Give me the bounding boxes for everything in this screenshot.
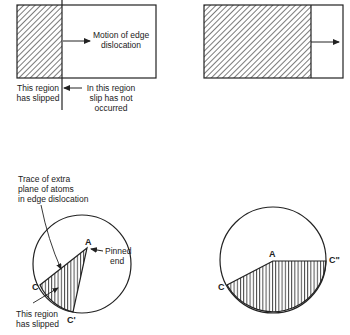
motion-label-line1: Motion of edge [93, 30, 150, 40]
panel-top-right [204, 5, 343, 78]
point-c-prime-label: C' [67, 315, 76, 325]
point-c-label: C [32, 282, 39, 292]
slipped-hatched-sector [40, 248, 87, 312]
trace-label-line1: Trace of extra [18, 174, 70, 184]
panel-bottom-right: A C C" [218, 207, 340, 313]
pinned-label-line1: Pinned [105, 246, 132, 256]
pinned-arrow [91, 249, 103, 251]
slipped-label-line1: This region [16, 309, 58, 319]
slipped-label-line1: This region [17, 83, 59, 93]
trace-pointer [41, 205, 61, 269]
motion-label-line2: dislocation [101, 40, 141, 50]
point-c-double-prime-label: C" [329, 255, 340, 265]
point-a-label: A [85, 237, 92, 247]
slipped-label-line2: has slipped [16, 319, 59, 329]
slipped-hatched-region [227, 261, 326, 312]
slipped-hatched-region [204, 5, 311, 78]
dislocation-diagram: Motion of edge dislocation This region h… [0, 0, 350, 335]
trace-label-line3: in edge dislocation [18, 194, 89, 204]
slipped-hatched-region [17, 5, 62, 78]
not-slipped-label-line1: In this region [87, 83, 136, 93]
point-c-label: C [218, 282, 225, 292]
trace-label-line2: plane of atoms [18, 184, 74, 194]
panel-bottom-left: Trace of extra plane of atoms in edge di… [16, 174, 132, 329]
pinned-label-line2: end [110, 256, 124, 266]
not-slipped-label-line2: slip has not [90, 93, 134, 103]
not-slipped-label-line3: occurred [94, 103, 127, 113]
slipped-label-line2: has slipped [16, 93, 59, 103]
point-a-label: A [269, 249, 276, 259]
panel-top-left: Motion of edge dislocation This region h… [16, 0, 156, 113]
